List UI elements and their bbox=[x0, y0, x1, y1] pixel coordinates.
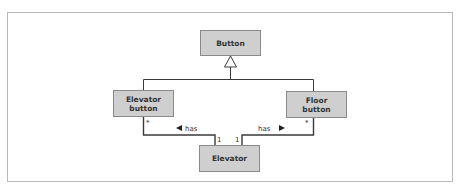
class-floor-button-label-line2: button bbox=[302, 105, 330, 114]
class-elevator-label: Elevator bbox=[212, 154, 247, 163]
association-label-has-right: has bbox=[258, 125, 271, 133]
association-label-has-left: has bbox=[185, 125, 198, 133]
multiplicity-one-right: 1 bbox=[235, 136, 239, 144]
class-elevator-button-label-line2: button bbox=[129, 104, 157, 113]
class-elevator-button-label-line1: Elevator bbox=[126, 95, 161, 104]
class-elevator[interactable]: Elevator bbox=[200, 146, 260, 172]
uml-diagram: Button Elevator button Floor button Elev… bbox=[0, 0, 464, 192]
class-floor-button[interactable]: Floor button bbox=[287, 92, 347, 118]
multiplicity-star-left: * bbox=[146, 119, 150, 127]
class-button-label: Button bbox=[216, 39, 245, 48]
multiplicity-star-right: * bbox=[305, 119, 309, 127]
direction-arrow-left-icon bbox=[176, 125, 182, 131]
class-floor-button-label-line1: Floor bbox=[306, 96, 328, 105]
association-left bbox=[144, 117, 216, 145]
direction-arrow-right-icon bbox=[279, 125, 285, 131]
class-elevator-button[interactable]: Elevator button bbox=[114, 91, 174, 117]
generalization-arrowhead-icon bbox=[225, 56, 237, 67]
multiplicity-one-left: 1 bbox=[217, 136, 221, 144]
association-right bbox=[242, 118, 314, 145]
class-button[interactable]: Button bbox=[201, 31, 261, 56]
